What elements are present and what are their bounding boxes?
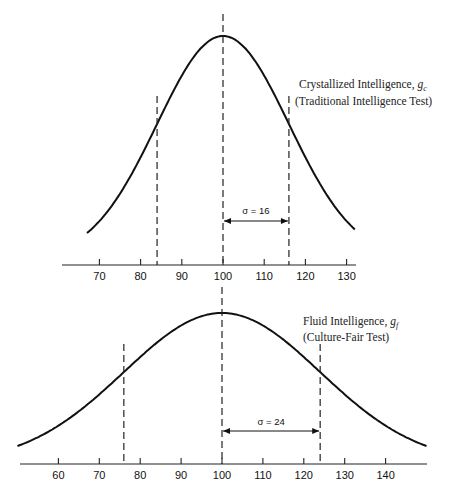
crystallized-title-line2: (Traditional Intelligence Test) — [295, 95, 432, 108]
x-tick-label: 140 — [376, 469, 394, 481]
x-tick-label: 90 — [175, 469, 187, 481]
fluid-marker-lines — [124, 287, 320, 464]
crystallized-marker-lines — [157, 14, 289, 265]
crystallized-normal-curve — [87, 36, 355, 233]
fluid-sigma-arrow: σ = 24 — [223, 416, 319, 434]
x-tick-label: 80 — [134, 469, 146, 481]
crystallized-intelligence-chart: 708090100110120130 σ = 16 Crystallized I… — [62, 14, 432, 282]
x-tick-label: 110 — [254, 469, 272, 481]
fluid-x-ticks: 60708090100110120130140 — [52, 458, 395, 481]
x-tick-label: 120 — [296, 270, 314, 282]
crystallized-sigma-arrow: σ = 16 — [224, 205, 288, 224]
x-tick-label: 120 — [295, 469, 313, 481]
iq-distribution-chart: 708090100110120130 σ = 16 Crystallized I… — [0, 0, 454, 500]
fluid-title-line1: Fluid Intelligence, gf — [303, 315, 400, 330]
arrow-right-icon — [281, 218, 288, 224]
sigma-label: σ = 16 — [242, 205, 269, 216]
arrow-right-icon — [312, 428, 319, 434]
arrow-left-icon — [223, 428, 230, 434]
crystallized-title-line1: Crystallized Intelligence, gc — [299, 78, 427, 93]
x-tick-label: 70 — [93, 270, 105, 282]
x-tick-label: 110 — [255, 270, 273, 282]
x-tick-label: 70 — [93, 469, 105, 481]
fluid-title-line2: (Culture-Fair Test) — [303, 331, 389, 344]
x-tick-label: 80 — [134, 270, 146, 282]
fluid-intelligence-chart: 60708090100110120130140 σ = 24 Fluid Int… — [18, 287, 428, 481]
sigma-label: σ = 24 — [257, 416, 284, 427]
x-tick-label: 130 — [336, 469, 354, 481]
x-tick-label: 90 — [176, 270, 188, 282]
x-tick-label: 100 — [213, 469, 231, 481]
x-tick-label: 100 — [214, 270, 232, 282]
x-tick-label: 130 — [337, 270, 355, 282]
arrow-left-icon — [224, 218, 231, 224]
crystallized-x-ticks: 708090100110120130 — [93, 259, 356, 282]
x-tick-label: 60 — [52, 469, 64, 481]
